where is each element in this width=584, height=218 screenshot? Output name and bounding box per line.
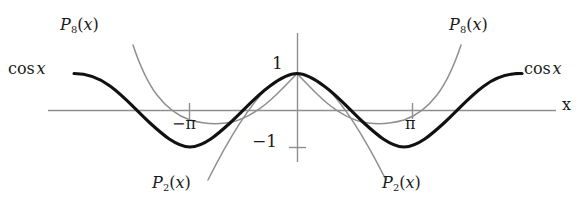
label-p2-left: P2(x)	[152, 175, 191, 193]
label-cos-right-fn: cos	[524, 59, 551, 78]
label-p8-right-base: P	[449, 15, 460, 34]
label-p2-right: P2(x)	[382, 175, 421, 193]
label-x-tick-neg-pi: −π	[172, 116, 196, 132]
label-cos-right: cos x	[524, 61, 561, 77]
label-p8-right-arg: (x)	[466, 15, 488, 34]
label-y-tick-neg-one: −1	[252, 133, 277, 150]
label-x-axis: x	[562, 97, 571, 113]
label-cos-right-var: x	[552, 59, 561, 78]
label-p8-left-arg: (x)	[77, 15, 99, 34]
label-y-tick-one: 1	[272, 55, 283, 72]
taylor-cosine-figure: P8(x) P8(x) cos x cos x 1 −1 −π π x P2(x…	[0, 0, 584, 218]
label-p2-right-arg: (x)	[399, 173, 421, 192]
label-cos-left-var: x	[36, 59, 45, 78]
label-p2-right-base: P	[382, 173, 393, 192]
label-cos-left-fn: cos	[8, 59, 35, 78]
label-p2-left-base: P	[152, 173, 163, 192]
label-p8-left: P8(x)	[60, 17, 99, 35]
label-p8-right: P8(x)	[449, 17, 488, 35]
label-p8-left-base: P	[60, 15, 71, 34]
label-p2-left-arg: (x)	[169, 173, 191, 192]
label-x-tick-pi: π	[405, 116, 416, 132]
label-cos-left: cos x	[8, 61, 45, 77]
